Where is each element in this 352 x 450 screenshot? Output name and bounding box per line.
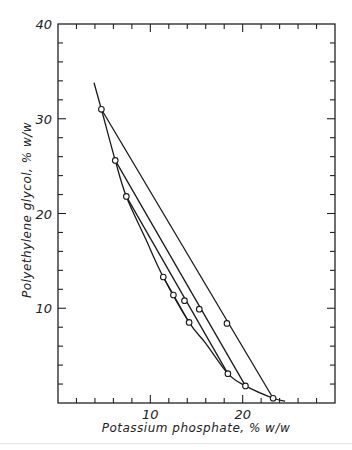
- data-point-marker: [124, 194, 130, 200]
- plot-frame: [58, 24, 335, 403]
- tie-line-2: [115, 160, 245, 386]
- tie-line-3: [126, 196, 228, 373]
- data-point-marker: [182, 298, 188, 304]
- data-point-marker: [186, 320, 192, 326]
- data-point-marker: [243, 383, 249, 389]
- phase-diagram-chart: 1020 10203040 Potassium phosphate, % w/w…: [0, 0, 352, 450]
- x-tick-label: 10: [142, 407, 159, 422]
- data-point-marker: [160, 274, 166, 280]
- data-point-marker: [171, 292, 177, 298]
- data-point-marker: [112, 158, 118, 164]
- data-point-marker: [196, 306, 202, 312]
- y-tick-label: 20: [35, 207, 52, 222]
- y-axis-label: Polyethylene glycol, % w/w: [20, 122, 34, 298]
- y-tick-label: 10: [35, 301, 52, 316]
- data-point-marker: [270, 395, 276, 401]
- y-tick-label: 30: [35, 112, 52, 127]
- x-axis-ticks: [76, 24, 316, 403]
- x-tick-label: 20: [234, 407, 251, 422]
- y-axis-tick-labels: 10203040: [35, 17, 52, 316]
- x-axis-label: Potassium phosphate, % w/w: [102, 421, 291, 435]
- y-tick-label: 40: [35, 17, 52, 32]
- x-axis-tick-labels: 1020: [142, 407, 251, 422]
- binodal-curve: [94, 83, 285, 401]
- bottom-divider: [0, 443, 352, 444]
- data-point-marker: [99, 106, 105, 112]
- data-point-marker: [225, 371, 231, 377]
- data-point-marker: [224, 321, 230, 327]
- series-layer: [94, 83, 285, 401]
- tie-line-1: [101, 109, 273, 398]
